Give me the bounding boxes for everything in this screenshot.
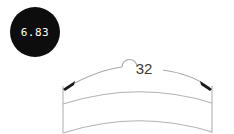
part-lower-arc: [63, 121, 212, 133]
part-outline-group: [63, 86, 212, 133]
dimension-value-label: 32: [136, 60, 153, 77]
dimension-right-arrowhead: [200, 81, 212, 91]
dimension-left-arrowhead: [63, 81, 75, 91]
drawing-canvas: 32 6.83: [0, 0, 234, 134]
balloon-value-label: 6.83: [21, 26, 50, 39]
balloon-callout[interactable]: 6.83: [10, 7, 60, 57]
arrowheads-group: [63, 81, 212, 91]
part-upper-arc: [63, 92, 212, 104]
technical-drawing: 32 6.83: [0, 0, 234, 134]
